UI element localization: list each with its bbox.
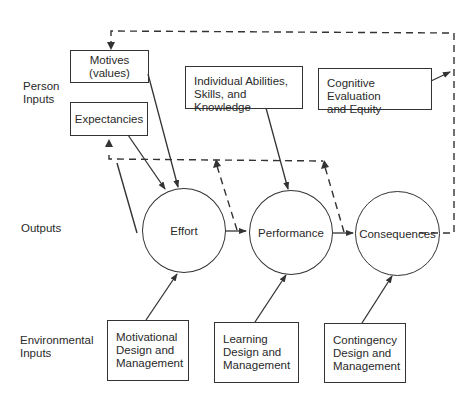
row-label-person-inputs: Person Inputs (23, 80, 59, 106)
circle-consequences: Consequences (355, 191, 440, 276)
arrow-learning-to-performance (255, 275, 286, 322)
box-motivational-design: Motivational Design and Management (107, 320, 189, 381)
arrow-abilities-to-performance (266, 108, 288, 189)
arrow-expectancies-to-effort (128, 135, 165, 189)
row-label-environmental-inputs: Environmental Inputs (20, 334, 94, 360)
arrow-contingency-to-consequences (362, 276, 392, 323)
arrow-motivational-to-effort (146, 274, 177, 320)
box-individual-abilities: Individual Abilities, Skills, and Knowle… (185, 66, 303, 109)
box-contingency-design: Contingency Design and Management (324, 323, 406, 383)
arrow-cognitive-to-loop (431, 72, 450, 81)
box-motives: Motives (values) (70, 50, 149, 83)
box-learning-design: Learning Design and Management (214, 322, 299, 383)
row-label-outputs: Outputs (21, 222, 61, 235)
box-expectancies: Expectancies (70, 102, 148, 136)
arrow-head-motives (107, 42, 115, 50)
box-cognitive-evaluation: Cognitive Evaluation and Equity (318, 68, 432, 110)
circle-effort: Effort (142, 188, 226, 273)
circle-performance: Performance (249, 190, 333, 275)
